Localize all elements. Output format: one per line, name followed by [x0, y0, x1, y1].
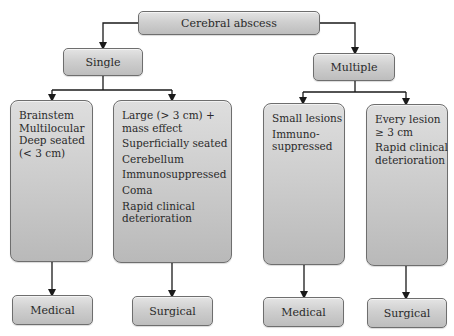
- criteria-line: suppressed: [272, 140, 338, 153]
- criteria-line: Large (> 3 cm) +: [122, 109, 225, 122]
- outcome-label: Surgical: [149, 305, 196, 318]
- criteria-box-single-medical: Brainstem Multilocular Deep seated (< 3 …: [10, 100, 93, 262]
- branch-node-single: Single: [63, 48, 143, 76]
- criteria-line: Immuno-: [272, 128, 338, 141]
- criteria-box-single-surgical: Large (> 3 cm) + mass effect Superficial…: [113, 100, 232, 263]
- criteria-line: Rapid clinical: [122, 200, 225, 213]
- outcome-node-surgical-single: Surgical: [132, 296, 213, 326]
- outcome-label: Surgical: [384, 307, 431, 320]
- criteria-line: deterioration: [375, 154, 441, 167]
- root-to-single-arrow: [103, 23, 138, 46]
- branch-label-single: Single: [85, 56, 120, 69]
- criteria-line: Cerebellum: [122, 153, 225, 166]
- outcome-label: Medical: [30, 304, 75, 317]
- criteria-line: ≥ 3 cm: [375, 126, 441, 139]
- outcome-node-medical-multiple: Medical: [263, 297, 344, 327]
- criteria-line: Rapid clinical: [375, 141, 441, 154]
- criteria-box-multiple-surgical: Every lesion ≥ 3 cm Rapid clinical deter…: [366, 104, 448, 266]
- branch-label-multiple: Multiple: [331, 61, 378, 74]
- outcome-node-surgical-multiple: Surgical: [367, 298, 447, 328]
- outcome-label: Medical: [281, 306, 326, 319]
- root-label: Cerebral abscess: [181, 17, 277, 30]
- root-node-cerebral-abscess: Cerebral abscess: [138, 11, 320, 35]
- criteria-line: mass effect: [122, 122, 225, 135]
- criteria-line: Small lesions: [272, 112, 338, 125]
- criteria-box-multiple-medical: Small lesions Immuno- suppressed: [263, 103, 345, 265]
- outcome-node-medical-single: Medical: [12, 295, 93, 325]
- root-to-multiple-arrow: [320, 23, 355, 51]
- criteria-line: Every lesion: [375, 113, 441, 126]
- branch-node-multiple: Multiple: [313, 53, 395, 81]
- criteria-line: Brainstem: [19, 109, 86, 122]
- criteria-line: Multilocular: [19, 122, 86, 135]
- criteria-line: Coma: [122, 184, 225, 197]
- criteria-line: Deep seated: [19, 134, 86, 147]
- criteria-line: deterioration: [122, 212, 225, 225]
- criteria-line: Immunosuppressed: [122, 168, 225, 181]
- criteria-line: Superficially seated: [122, 137, 225, 150]
- criteria-line: (< 3 cm): [19, 147, 86, 160]
